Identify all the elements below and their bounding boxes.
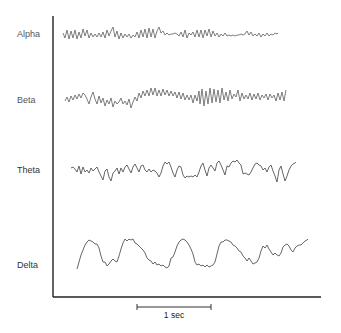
scale-bar-label: 1 sec — [144, 310, 204, 320]
wave-label-delta: Delta — [17, 260, 38, 270]
waveforms — [63, 27, 308, 269]
eeg-figure — [0, 0, 341, 333]
waveform-beta — [65, 88, 286, 108]
waveform-alpha — [63, 27, 278, 39]
wave-label-theta: Theta — [17, 165, 40, 175]
wave-label-beta: Beta — [17, 95, 36, 105]
wave-label-alpha: Alpha — [17, 29, 40, 39]
waveform-theta — [71, 160, 296, 182]
waveform-delta — [77, 239, 308, 269]
